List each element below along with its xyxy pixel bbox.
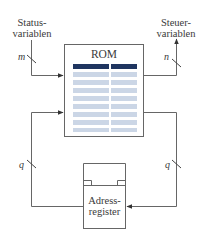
feedback-right-bus-width-label: q: [165, 159, 170, 170]
status-label-line1: Status-: [9, 17, 55, 28]
feedback-left-bus-width-label: q: [19, 159, 24, 170]
control-label-line2: variablen: [152, 28, 200, 39]
register-clock-notch: [84, 181, 126, 186]
register-label-line1: Adress-: [83, 195, 126, 206]
register-clock-shape: [84, 164, 126, 186]
rom-header-cell-1: [73, 64, 109, 69]
rom-label: ROM: [64, 49, 144, 60]
rom-header-cell-2: [111, 64, 137, 69]
control-bus-width-label: n: [164, 51, 169, 62]
control-output-line: [144, 39, 177, 76]
address-register-label: Adress- register: [83, 195, 126, 217]
status-label-line2: variablen: [9, 28, 55, 39]
status-variables-label: Status- variablen: [9, 17, 55, 39]
register-label-line2: register: [83, 206, 126, 217]
control-variables-label: Steuer- variablen: [152, 17, 200, 39]
status-bus-width-label: m: [18, 51, 25, 62]
control-label-line1: Steuer-: [152, 17, 200, 28]
status-input-line: [32, 40, 64, 76]
